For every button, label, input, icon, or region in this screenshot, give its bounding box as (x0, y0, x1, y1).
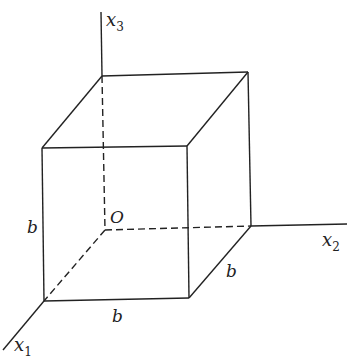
x3-axis (101, 12, 102, 76)
x2-axis (251, 224, 347, 226)
front-bottom-edge-label: b (112, 306, 123, 326)
front-right-vertical-edge (187, 146, 189, 298)
hidden-x1-edge (44, 230, 105, 301)
depth-edge-label: b (226, 261, 237, 281)
bottom-right-depth-edge (189, 226, 251, 298)
top-right-edge (187, 72, 248, 146)
x3-axis-label: x3 (106, 9, 124, 34)
x1-axis-label: x1 (14, 334, 32, 359)
back-right-vertical-edge (248, 72, 251, 226)
origin-label: O (110, 207, 124, 227)
x2-axis-label: x2 (322, 229, 340, 254)
cube-diagram: x3 x2 x1 O b b b (0, 0, 362, 362)
hidden-vertical-edge (102, 76, 105, 230)
top-back-edge (102, 72, 248, 76)
top-left-edge (42, 76, 102, 148)
hidden-x2-edge (105, 226, 251, 230)
top-front-edge (42, 146, 187, 148)
front-left-vertical-edge (42, 148, 44, 301)
front-bottom-edge (44, 298, 189, 301)
vertical-edge-label: b (27, 217, 38, 237)
